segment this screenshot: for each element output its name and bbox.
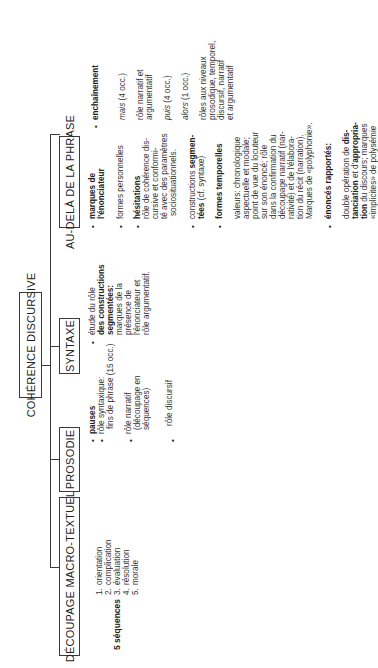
prosodie-item-pauses: pauses [88,343,97,434]
enchainement-role: argumentatif [145,41,154,120]
rapportes-line: double opération de dis- [342,122,351,219]
branch-label-syntaxe: SYNTAXE [64,320,76,372]
root-title: COHÉRENCE DISCURSIVE [25,273,37,418]
bullet-icon: • [88,225,97,228]
item-constructions: constructions segmen- [188,122,197,219]
temporelles-line: dans la confirmation du [269,122,278,219]
prosodie-item-syntaxique-detail: fins de phrase (15 occ.) [106,343,115,434]
bullet-icon: • [133,225,142,228]
heading-hesitations: hésitations [133,122,142,219]
enchainement-roles: et argumentatif [226,41,235,120]
heading-marques: marques de [88,122,97,219]
branch-label-au-dela: AU-DELÀ DE LA PHRASE [64,115,76,249]
prosodie-item-narratif-detail: (découpage en [133,343,142,434]
bullet-icon: • [126,439,135,442]
prosodie-item-syntaxique: rôle syntaxique: [97,343,106,434]
syntaxe-line: segmentées: [106,264,115,335]
enchainement-mais: mais (4 occ.) [118,41,127,120]
sequence-item: 4.résolution [122,539,131,595]
au-dela-left-column: marques de l'énonciateur formes personne… [88,122,378,219]
item-constructions: tées (cf. syntaxe) [197,122,206,219]
heading-marques: l'énonciateur [97,122,106,219]
syntaxe-line: présence de [124,264,133,335]
enchainement-roles: discursif, narratif [217,41,226,120]
temporelles-line: point de vue du locuteur [251,122,260,219]
heading-formes-temporelles: formes temporelles [215,122,224,219]
branch-box-prosodie: PROSODIE [59,427,80,492]
branch-label-prosodie: PROSODIE [64,430,76,490]
syntaxe-list: étude du rôle des constructions segmenté… [88,264,151,335]
branch-box-syntaxe: SYNTAXE [59,318,80,374]
rapportes-line: tanciation et d'appropria- [351,122,360,219]
sequence-item: 2.complication [104,539,113,595]
bullet-icon: • [88,439,97,442]
branch-box-decoupage: DÉCOUPAGE MACRO-TEXTUEL [59,497,80,656]
rapportes-line: «implicites» de polysémie [369,122,378,219]
temporelles-line: sur son énoncé; rôle [260,122,269,219]
bullet-icon: • [88,341,97,344]
prosodie-item-narratif-detail: séquences) [142,343,151,434]
sequence-list: 1.orientation 2.complication 3.évaluatio… [95,539,140,595]
bullet-icon: • [325,225,334,228]
syntaxe-line: marques de la [115,264,124,335]
sequences-label: 5 séquences [113,599,122,650]
temporelles-line: tion du récit (narration). [296,122,305,219]
hesitations-line: rôle de cohérence dis- [142,122,151,219]
bullet-icon: • [215,225,224,228]
enchainement-roles: rôles aux niveaux [199,41,208,120]
au-dela-right-column: enchaînement mais (4 occ.) rôle narratif… [91,41,235,120]
temporelles-line: valeurs: chronologique [233,122,242,219]
prosodie-item-narratif: rôle narratif [124,343,133,434]
branch-label-decoupage: DÉCOUPAGE MACRO-TEXTUEL [64,491,76,662]
temporelles-line: aspectuelle et modale; [242,122,251,219]
heading-enchainement: enchaînement [91,41,100,120]
hesitations-line: sociosituationnels. [169,122,178,219]
enchainement-role: rôle narratif et [136,41,145,120]
syntaxe-line: l'énonciateur et [133,264,142,335]
hesitations-line: cursive et conformi- [151,122,160,219]
item-formes-personnelles: formes personnelles [116,122,125,219]
rapportes-line: tion du discours; marques [360,122,369,219]
syntaxe-line: des constructions [97,264,106,335]
heading-enonces-rapportes: énoncés rapportés: [324,122,333,219]
sequence-item: 5.morale [131,539,140,595]
temporelles-line: Marques de «polyphonie». [305,122,314,219]
syntaxe-line: rôle argumentatif. [142,264,151,335]
bullet-icon: • [97,439,106,442]
branch-box-au-dela: AU-DELÀ DE LA PHRASE [59,136,80,228]
branch-bus-line [50,135,51,568]
syntaxe-line: étude du rôle [88,264,97,335]
sequence-item: 3.évaluation [113,539,122,595]
sequence-item: 1.orientation [95,539,104,595]
bullet-icon: • [188,225,197,228]
tick-au-dela [50,134,60,135]
bullet-icon: • [116,225,125,228]
root-box-coherence-discursive: COHÉRENCE DISCURSIVE [19,292,42,398]
enchainement-puis: puis (4 occ.) [163,41,172,120]
bullet-icon: • [168,439,177,442]
enchainement-roles: prosodique, temporel, [208,41,217,120]
hesitations-line: té avec des paramètres [160,122,169,219]
prosodie-item-discursif: rôle discursif [165,343,174,434]
bullet-icon: • [91,125,100,128]
temporelles-line: rativité) et de l'élabora- [287,122,296,219]
temporelles-line: découpage narratif (nar- [278,122,287,219]
prosodie-list: pauses rôle syntaxique: fins de phrase (… [88,343,174,434]
enchainement-alors: alors (1 occ.) [181,41,190,120]
